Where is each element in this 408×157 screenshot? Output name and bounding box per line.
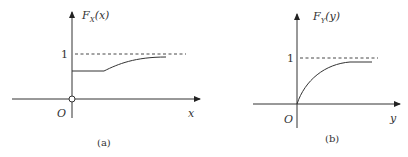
x-axis-label: x — [188, 107, 195, 120]
panel-b: 1 FY(y) O y (b) — [253, 10, 400, 144]
x-axis-label: y — [389, 112, 397, 125]
origin-label: O — [284, 113, 293, 126]
caption-a: (a) — [97, 137, 111, 148]
figure: 1 FX(x) O x (a) 1 FY(y) O y (b) — [0, 0, 408, 157]
one-label: 1 — [287, 52, 294, 65]
one-label: 1 — [61, 48, 68, 61]
open-circle — [69, 96, 75, 102]
cdf-curve — [72, 57, 166, 71]
caption-b: (b) — [325, 133, 339, 144]
origin-label: O — [57, 107, 66, 120]
y-axis-label: FY(y) — [312, 10, 340, 25]
y-axis-label: FX(x) — [81, 9, 109, 24]
panel-a: 1 FX(x) O x (a) — [12, 9, 200, 148]
cdf-curve — [297, 62, 372, 104]
